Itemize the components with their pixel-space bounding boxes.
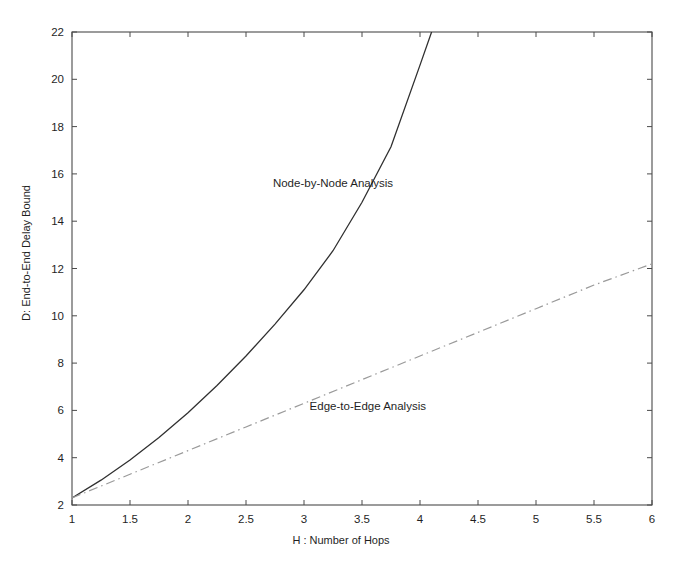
plot-border <box>72 32 652 505</box>
plot-canvas <box>0 0 682 561</box>
axis-ticks <box>72 32 652 505</box>
x-tick-label: 5 <box>533 513 539 525</box>
series-annotation-2: Edge-to-Edge Analysis <box>310 400 426 412</box>
x-tick-label: 1.5 <box>122 513 138 525</box>
axes-frame <box>72 32 652 505</box>
y-axis-label: D: End-to-End Delay Bound <box>14 0 38 505</box>
x-axis-label-text: H : Number of Hops <box>0 534 682 546</box>
x-tick-label: 4 <box>417 513 423 525</box>
x-tick-label: 4.5 <box>470 513 486 525</box>
data-series-group <box>72 32 652 498</box>
x-tick-label: 1 <box>69 513 75 525</box>
x-tick-label: 2.5 <box>238 513 254 525</box>
chart-figure: 246810121416182022 11.522.533.544.555.56… <box>0 0 682 561</box>
x-tick-label: 5.5 <box>586 513 602 525</box>
x-tick-label: 6 <box>649 513 655 525</box>
series-line-1 <box>72 32 432 498</box>
x-tick-label: 3 <box>301 513 307 525</box>
series-annotation-1: Node-by-Node Analysis <box>273 177 393 189</box>
series-line-2 <box>72 264 652 498</box>
x-tick-label: 3.5 <box>354 513 370 525</box>
x-tick-label: 2 <box>185 513 191 525</box>
y-axis-label-text: D: End-to-End Delay Bound <box>20 185 32 321</box>
